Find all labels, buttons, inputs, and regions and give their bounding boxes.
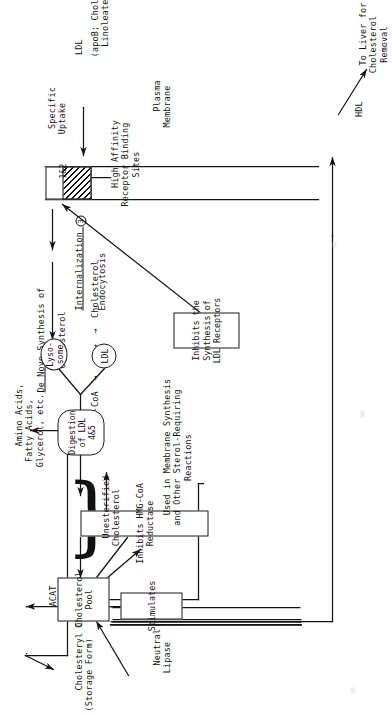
apob-text: (apoB; Cholesteryl Linoleate): [89, 0, 110, 57]
to-liver-text: To Liver for Cholesterol Removal: [357, 2, 388, 73]
neutral-lipase-text: Neutral Lipase: [151, 628, 172, 673]
to-liver-label: To Liver for Cholesterol Removal: [346, 0, 392, 99]
unesterified-cholesterol-text: Unesterified Cholesterol: [100, 475, 121, 546]
specific-uptake-text: Specific Uptake: [46, 87, 67, 134]
hdl-text: HDL: [353, 101, 363, 117]
lysosome-label: Lyso- some: [44, 342, 64, 367]
cholesteryl-oleate-label: Cholesteryl Oleate (Storage Form): [62, 647, 104, 711]
lysosome-node: Lyso- some: [40, 338, 67, 370]
digestion-of-ldl-label: Digestion of LDL 4&5: [66, 410, 96, 454]
step-3-badge: 3: [75, 215, 86, 226]
stimulates-label: Stimulates: [146, 580, 157, 630]
specific-uptake-label: Specific Uptake: [35, 85, 77, 151]
scan-speck: [332, 242, 336, 247]
amino-acids-label: Amino Acids, Fatty Acids, Glycerol, etc.: [2, 393, 55, 467]
stimulates-box: Stimulates: [120, 592, 182, 619]
internalization-text: Internalization: [73, 226, 83, 310]
cholesterol-pool-box: Cholesterol Pool: [57, 577, 109, 621]
receptor-steps-text: 1&2: [58, 163, 67, 178]
scan-speck: [360, 410, 364, 417]
receptor-steps-label: 1&2: [47, 166, 79, 198]
ldl-vesicle-label: LDL: [99, 348, 109, 363]
amino-acids-text: Amino Acids, Fatty Acids, Glycerol, etc.: [13, 383, 44, 467]
apob-label: (apoB; Cholesteryl Linoleate): [78, 0, 120, 85]
membrane-synthesis-label: Used in Membrane Synthesis and Other Ste…: [150, 357, 203, 557]
acat-text: ACAT: [47, 585, 57, 606]
ldl-vesicle-node: LDL: [91, 343, 116, 368]
neutral-lipase-label: Neutral Lipase: [140, 627, 182, 687]
unesterified-cholesterol-label: Unesterified Cholesterol: [89, 469, 131, 565]
inhibits-ldl-receptor-synthesis-label: Inhibits the Synthesis of LDL Receptors: [190, 297, 222, 363]
cholesterol-pool-label: Cholesterol Pool: [73, 571, 94, 626]
inhibits-ldl-receptor-synthesis-box: Inhibits the Synthesis of LDL Receptors: [173, 312, 239, 348]
hdl-label: HDL: [342, 99, 374, 139]
membrane-synthesis-text: Used in Membrane Synthesis and Other Ste…: [161, 378, 192, 525]
plasma-membrane-label: Plasma Membrane: [140, 71, 182, 141]
plasma-membrane-text: Plasma Membrane: [151, 80, 172, 127]
digestion-of-ldl-node: Digestion of LDL 4&5: [57, 409, 104, 455]
endocytosis-text: Endocytosis: [96, 252, 106, 310]
high-affinity-receptor-text: High Affinity Receptor Binding Sites: [109, 119, 140, 206]
scan-speck: [350, 687, 355, 693]
